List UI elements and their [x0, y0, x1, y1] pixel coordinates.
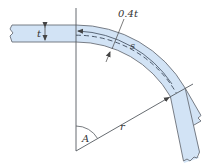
curved-beam-diagram: t 0.4t s r A — [0, 0, 204, 166]
beam-body — [10, 25, 201, 129]
label-offset: 0.4t — [118, 8, 139, 19]
label-arc-length: s — [130, 40, 135, 51]
beam-lower-segment — [170, 88, 200, 163]
label-angle: A — [81, 133, 89, 144]
